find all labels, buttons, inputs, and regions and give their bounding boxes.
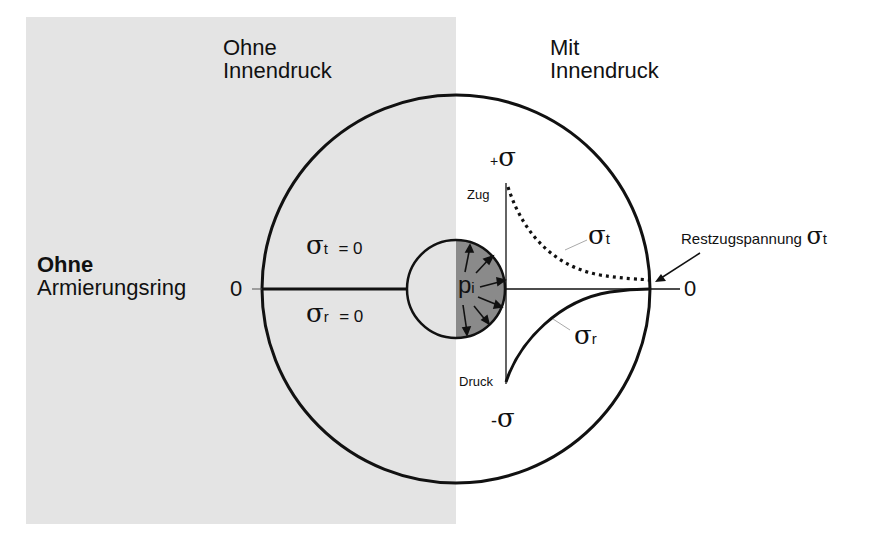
side-label-normal: Armierungsring (37, 276, 186, 299)
sigma-sub: t (606, 230, 610, 247)
header-left: Ohne Innendruck (223, 36, 332, 82)
compression-label: Druck (459, 375, 493, 389)
sigma-r-leader (553, 319, 570, 330)
sigma-symbol: σ (588, 220, 606, 250)
sigma-sub: r (592, 330, 597, 347)
zero-label-right: 0 (684, 277, 696, 300)
minus-sigma-label: -σ (491, 405, 515, 432)
eq-value: = 0 (338, 239, 362, 258)
pressure-sub: i (471, 279, 474, 296)
sigma-sub: t (324, 240, 328, 257)
side-label: Ohne Armierungsring (37, 253, 186, 299)
sigma-r-curve-label: σr (574, 322, 597, 349)
sigma-symbol: σ (306, 230, 324, 260)
sigma-symbol: σ (498, 142, 516, 172)
header-left-line1: Ohne (223, 36, 332, 59)
sigma-sub: t (823, 230, 827, 247)
sigma-symbol: σ (306, 298, 324, 328)
plus-sign: + (490, 153, 498, 169)
sigma-symbol: σ (574, 320, 592, 350)
header-right: Mit Innendruck (550, 36, 659, 82)
sigma-sub: r (324, 308, 329, 325)
residual-stress-annotation: Restzugspannung σt (681, 224, 827, 249)
sigma-r-zero-eq: σr = 0 (306, 300, 363, 327)
inner-pressure-label: pi (458, 272, 475, 297)
sigma-t-leader (565, 240, 587, 250)
annotation-text: Restzugspannung (681, 230, 802, 247)
sigma-t-curve-label: σt (588, 222, 610, 249)
zero-label-left: 0 (230, 277, 242, 300)
header-right-line1: Mit (550, 36, 659, 59)
plus-sigma-label: +σ (490, 144, 516, 171)
pressure-symbol: p (458, 271, 471, 298)
sigma-t-zero-eq: σt = 0 (306, 232, 362, 259)
header-right-line2: Innendruck (550, 59, 659, 82)
header-left-line2: Innendruck (223, 59, 332, 82)
sigma-symbol: σ (497, 403, 515, 433)
eq-value: = 0 (339, 307, 363, 326)
tension-label: Zug (467, 188, 489, 202)
side-label-bold: Ohne (37, 253, 186, 276)
sigma-symbol: σ (806, 222, 822, 250)
